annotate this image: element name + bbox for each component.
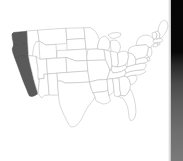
state-wisconsin[interactable] [98, 36, 111, 51]
right-edge-strip [171, 0, 183, 161]
state-north-dakota[interactable] [66, 28, 85, 40]
state-texas[interactable] [58, 81, 96, 127]
state-ohio[interactable] [117, 51, 129, 67]
state-washington[interactable] [12, 31, 28, 45]
state-arkansas[interactable] [90, 80, 109, 94]
state-new-mexico[interactable] [48, 73, 59, 95]
state-missouri[interactable] [87, 60, 110, 82]
state-iowa[interactable] [87, 49, 106, 61]
map-screenshot-root [0, 0, 183, 161]
us-map-svg[interactable] [0, 0, 171, 161]
state-connecticut[interactable] [153, 43, 158, 47]
state-colorado[interactable] [47, 57, 67, 74]
state-oregon[interactable] [12, 44, 28, 57]
state-south-dakota[interactable] [67, 39, 86, 51]
state-minnesota[interactable] [84, 28, 100, 50]
us-map-container[interactable] [0, 0, 171, 161]
state-idaho[interactable] [27, 30, 39, 56]
state-rhode-island[interactable] [158, 43, 161, 46]
